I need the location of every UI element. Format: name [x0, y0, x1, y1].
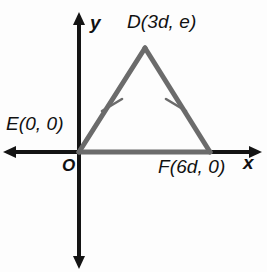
y-axis-label: y: [90, 13, 101, 32]
x-axis-left-arrow-icon: [3, 146, 16, 158]
y-axis-bottom-arrow-icon: [73, 256, 85, 269]
origin-label: O: [62, 157, 75, 174]
vertex-label-E: E(0, 0): [6, 114, 64, 133]
vertex-label-D: D(3d, e): [127, 12, 196, 31]
triangle-side-DF: [145, 48, 210, 152]
triangle-side-ED: [79, 48, 145, 152]
coordinate-plane-svg: [0, 0, 267, 272]
geometry-figure: D(3d, e) E(0, 0) F(6d, 0) O x y: [0, 0, 267, 272]
vertex-label-F: F(6d, 0): [158, 157, 225, 176]
x-axis-label: x: [243, 153, 254, 172]
y-axis-top-arrow-icon: [73, 12, 85, 25]
